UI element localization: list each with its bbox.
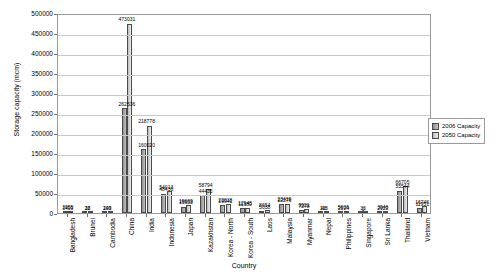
bar-2050 (226, 204, 231, 213)
bar-2050 (422, 206, 427, 213)
bar-2050 (88, 211, 93, 213)
x-tick-label: Korea - South (247, 218, 254, 262)
bar-2006 (259, 211, 264, 213)
x-tick-label: Kazakhstan (207, 218, 214, 262)
y-tick-label: 0 (7, 211, 53, 218)
bar-2050 (147, 126, 152, 214)
x-tick-mark (106, 214, 107, 217)
bar-2050 (127, 24, 132, 213)
bar-2006 (377, 211, 382, 213)
y-tick-mark (54, 54, 57, 55)
gridline (58, 115, 430, 116)
bar-2006 (338, 211, 343, 213)
gridline (58, 135, 430, 136)
y-tick-mark (54, 174, 57, 175)
x-tick-label: Malaysia (286, 218, 293, 262)
bar-value-label-2006: 262536 (113, 102, 141, 107)
x-tick-mark (421, 214, 422, 217)
bar-value-label-2006: 143 (93, 206, 121, 211)
bar-value-label-2006: 55544 (388, 184, 416, 189)
legend-swatch-icon (432, 123, 439, 130)
y-tick-mark (54, 154, 57, 155)
bar-2006 (417, 208, 422, 213)
bar-value-label-2006: 160020 (133, 143, 161, 148)
y-tick-label: 200000 (7, 131, 53, 138)
x-tick-mark (342, 214, 343, 217)
bars-layer: 3955140938222091434730312625362187781600… (58, 15, 430, 213)
bar-2050 (324, 211, 329, 213)
bar-2006 (141, 149, 146, 213)
gridline (58, 35, 430, 36)
bar-2050 (344, 211, 349, 213)
gridline (58, 175, 430, 176)
y-tick-label: 50000 (7, 191, 53, 198)
bar-2006 (240, 208, 245, 213)
chart-legend: 2006 Capacity 2050 Capacity (428, 118, 485, 144)
y-tick-label: 300000 (7, 91, 53, 98)
gridline (58, 195, 430, 196)
x-tick-label: Bangladesh (69, 218, 76, 262)
bar-2006 (122, 108, 127, 213)
legend-label: 2050 Capacity (442, 131, 480, 140)
bar-2006 (82, 211, 87, 213)
y-tick-label: 350000 (7, 71, 53, 78)
bar-2050 (383, 211, 388, 213)
x-tick-label: India (148, 218, 155, 262)
legend-item-2050[interactable]: 2050 Capacity (432, 131, 480, 140)
bar-2006 (200, 195, 205, 213)
bar-2050 (108, 211, 113, 213)
bar-2006 (318, 211, 323, 213)
x-tick-mark (264, 214, 265, 217)
x-tick-label: China (128, 218, 135, 262)
legend-swatch-icon (432, 132, 439, 139)
bar-2050 (285, 204, 290, 213)
x-tick-label: Indonesia (168, 218, 175, 262)
bar-2006 (102, 211, 107, 213)
x-tick-mark (205, 214, 206, 217)
y-tick-mark (54, 74, 57, 75)
y-tick-mark (54, 134, 57, 135)
y-tick-label: 500000 (7, 11, 53, 18)
x-tick-mark (224, 214, 225, 217)
y-tick-mark (54, 34, 57, 35)
gridline (58, 75, 430, 76)
bar-value-label-2050: 473031 (113, 17, 141, 22)
bar-2050 (403, 186, 408, 213)
bar-2050 (304, 209, 309, 213)
x-tick-label: Nepal (325, 218, 332, 262)
x-tick-label: Laos (266, 218, 273, 262)
bar-value-label-2006: 2022 (369, 206, 397, 211)
y-tick-label: 100000 (7, 171, 53, 178)
x-axis-title: Country (57, 262, 431, 269)
x-tick-mark (283, 214, 284, 217)
legend-label: 2006 Capacity (442, 122, 480, 131)
bar-2050 (68, 211, 73, 213)
bar-value-label-2006: 11951 (408, 202, 436, 207)
y-tick-mark (54, 14, 57, 15)
x-tick-label: Cambodia (109, 218, 116, 262)
x-tick-label: Korea - North (227, 218, 234, 262)
y-tick-mark (54, 94, 57, 95)
x-tick-mark (67, 214, 68, 217)
x-tick-label: Myanmar (306, 218, 313, 262)
bar-value-label-2006: 5038 (251, 205, 279, 210)
x-tick-mark (126, 214, 127, 217)
x-tick-mark (362, 214, 363, 217)
y-tick-label: 450000 (7, 31, 53, 38)
plot-area: 3955140938222091434730312625362187781600… (57, 14, 431, 214)
bar-2050 (186, 205, 191, 213)
legend-item-2006[interactable]: 2006 Capacity (432, 122, 480, 131)
x-tick-label: Sri Lanka (384, 218, 391, 262)
x-tick-mark (87, 214, 88, 217)
y-tick-mark (54, 114, 57, 115)
x-tick-mark (323, 214, 324, 217)
y-tick-label: 250000 (7, 111, 53, 118)
bar-2006 (279, 204, 284, 213)
y-tick-label: 400000 (7, 51, 53, 58)
gridline (58, 55, 430, 56)
x-tick-label: Vietnam (424, 218, 431, 262)
bar-2006 (220, 205, 225, 213)
x-tick-mark (165, 214, 166, 217)
y-tick-mark (54, 214, 57, 215)
x-tick-mark (382, 214, 383, 217)
